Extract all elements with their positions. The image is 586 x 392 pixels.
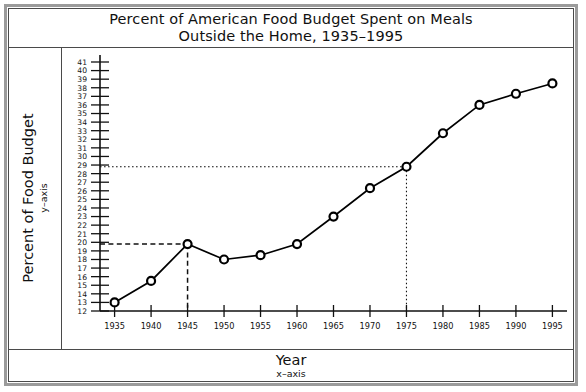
data-point bbox=[257, 251, 265, 259]
y-tick-label: 17 bbox=[77, 264, 87, 273]
x-tick-label: 1975 bbox=[396, 321, 417, 331]
x-axis-title-band: Year x–axis bbox=[9, 349, 573, 381]
data-point bbox=[147, 277, 155, 285]
y-tick-label: 29 bbox=[77, 161, 87, 170]
data-point bbox=[548, 79, 556, 87]
chart-title-line-2: Outside the Home, 1935–1995 bbox=[179, 28, 404, 45]
x-tick-label: 1965 bbox=[323, 321, 344, 331]
y-tick-label: 40 bbox=[77, 66, 87, 75]
data-markers bbox=[111, 79, 557, 306]
x-axis-title: Year bbox=[276, 352, 307, 368]
y-tick-label: 18 bbox=[77, 255, 87, 264]
y-tick-label: 36 bbox=[77, 101, 87, 110]
x-tick-label: 1960 bbox=[287, 321, 308, 331]
y-tick-label: 21 bbox=[77, 230, 87, 239]
x-tick-label: 1955 bbox=[250, 321, 271, 331]
y-tick-label: 38 bbox=[77, 84, 87, 93]
y-tick-label: 24 bbox=[77, 204, 87, 213]
x-tick-label: 1990 bbox=[506, 321, 527, 331]
y-tick-label: 16 bbox=[77, 273, 87, 282]
plot-area: 1213141516171819202122232425262728293031… bbox=[62, 48, 573, 349]
x-tick-label: 1980 bbox=[433, 321, 454, 331]
x-axis-subtitle: x–axis bbox=[276, 368, 305, 379]
data-point bbox=[220, 255, 228, 263]
y-tick-label: 15 bbox=[77, 281, 87, 290]
data-point bbox=[184, 240, 192, 248]
x-tick-label: 1985 bbox=[469, 321, 490, 331]
y-tick-label: 35 bbox=[77, 109, 87, 118]
y-tick-label: 23 bbox=[77, 212, 87, 221]
y-tick-label: 25 bbox=[77, 195, 87, 204]
x-tick-label: 1995 bbox=[542, 321, 563, 331]
y-tick-label: 27 bbox=[77, 178, 87, 187]
data-point bbox=[402, 163, 410, 171]
data-point bbox=[512, 90, 520, 98]
screenshot-page: Percent of American Food Budget Spent on… bbox=[0, 0, 586, 392]
y-tick-label: 37 bbox=[77, 92, 87, 101]
y-tick-label: 33 bbox=[77, 127, 87, 136]
y-tick-label: 30 bbox=[77, 152, 87, 161]
x-tick-label: 1970 bbox=[360, 321, 381, 331]
y-tick-label: 41 bbox=[77, 58, 87, 67]
data-point bbox=[439, 129, 447, 137]
y-tick-label: 32 bbox=[77, 135, 87, 144]
y-axis-title-band: Percent of Food Budget y–axis bbox=[9, 48, 62, 349]
series-line bbox=[115, 83, 553, 302]
y-tick-label: 19 bbox=[77, 247, 87, 256]
y-axis-subtitle: y–axis bbox=[38, 183, 50, 212]
data-point bbox=[475, 101, 483, 109]
data-point bbox=[111, 298, 119, 306]
chart-title: Percent of American Food Budget Spent on… bbox=[9, 9, 573, 48]
y-tick-label: 14 bbox=[77, 290, 87, 299]
y-axis: 1213141516171819202122232425262728293031… bbox=[77, 55, 109, 316]
y-tick-label: 12 bbox=[77, 307, 87, 316]
y-tick-label: 39 bbox=[77, 75, 87, 84]
x-tick-label: 1950 bbox=[214, 321, 235, 331]
data-point bbox=[293, 240, 301, 248]
y-tick-label: 13 bbox=[77, 298, 87, 307]
x-axis: 1935194019451950195519601965197019751980… bbox=[100, 305, 567, 331]
y-tick-label: 28 bbox=[77, 170, 87, 179]
x-tick-label: 1940 bbox=[141, 321, 162, 331]
data-point bbox=[330, 213, 338, 221]
x-tick-label: 1945 bbox=[177, 321, 198, 331]
y-axis-title: Percent of Food Budget bbox=[20, 113, 37, 282]
y-tick-label: 31 bbox=[77, 144, 87, 153]
y-tick-label: 20 bbox=[77, 238, 87, 247]
data-series bbox=[115, 83, 553, 302]
guide-lines bbox=[100, 167, 406, 311]
y-tick-label: 26 bbox=[77, 187, 87, 196]
y-tick-label: 34 bbox=[77, 118, 87, 127]
y-tick-label: 22 bbox=[77, 221, 87, 230]
data-point bbox=[366, 184, 374, 192]
chart-title-line-1: Percent of American Food Budget Spent on… bbox=[109, 11, 473, 28]
x-tick-label: 1935 bbox=[104, 321, 125, 331]
line-chart-svg: 1213141516171819202122232425262728293031… bbox=[62, 48, 573, 349]
